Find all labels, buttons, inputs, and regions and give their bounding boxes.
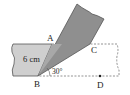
label-a: A	[47, 33, 54, 43]
width-label: 6 cm	[23, 54, 40, 64]
label-b: B	[34, 79, 40, 89]
folded-strip-diagram: A C B D 6 cm 30°	[0, 0, 130, 95]
label-d: D	[97, 80, 104, 90]
label-c: C	[91, 45, 97, 55]
angle-label: 30°	[52, 67, 63, 76]
point-d-dot	[99, 75, 102, 78]
